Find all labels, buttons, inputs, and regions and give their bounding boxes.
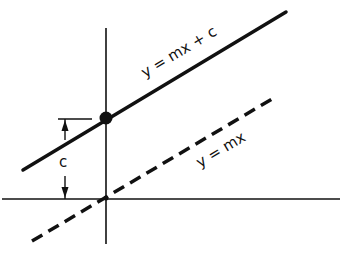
diagram-canvas: c y = mx + c y = mx (0, 0, 341, 256)
origin-point (104, 196, 109, 201)
line-y-mx (32, 96, 277, 241)
line-y-mx-plus-c (23, 12, 286, 170)
arrow-up-icon (62, 120, 69, 131)
intercept-label: c (59, 153, 67, 171)
arrow-down-icon (62, 187, 69, 198)
y-intercept-point (100, 112, 113, 125)
label-y-mx-plus-c: y = mx + c (138, 22, 220, 81)
label-y-mx: y = mx (193, 128, 249, 172)
